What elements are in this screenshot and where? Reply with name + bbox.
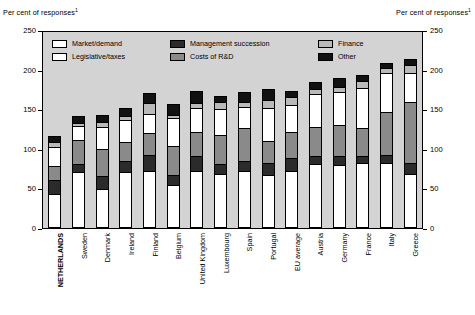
x-axis-label: Greece: [412, 233, 419, 257]
bar-segment: [191, 109, 202, 132]
y-axis-right: 050100150200250: [422, 31, 423, 229]
bar-segment: [120, 143, 131, 162]
bar-stack: [309, 82, 322, 228]
legend-label: Management succession: [190, 40, 270, 48]
x-axis-label: Ireland: [128, 233, 135, 255]
x-axis-label: Portugal: [270, 233, 277, 260]
bar-stack: [167, 104, 180, 228]
y-axis-tick: [38, 31, 42, 32]
bar-segment: [49, 181, 60, 195]
bar-segment: [239, 108, 250, 130]
bar-segment: [357, 164, 368, 227]
bar-segment: [381, 164, 392, 227]
bar-segment: [191, 172, 202, 227]
bar-segment: [49, 167, 60, 180]
bar-stack: [72, 116, 85, 228]
bar-stack: [333, 78, 346, 228]
bar-segment: [357, 89, 368, 128]
bar-segment: [120, 173, 131, 227]
bar-segment: [310, 157, 321, 166]
x-axis-label: Finland: [152, 233, 159, 257]
legend-label: Legislative/taxes: [72, 53, 125, 61]
x-axis-label: Luxembourg: [223, 233, 230, 273]
bar-segment: [215, 136, 226, 165]
bar-segment: [144, 115, 155, 135]
x-axis-label: Italy: [388, 233, 395, 246]
bar-segment: [73, 165, 84, 174]
bar-stack: [285, 91, 298, 228]
bar-segment: [191, 92, 202, 105]
bar-segment: [144, 156, 155, 172]
bar-segment: [286, 133, 297, 159]
bar-segment: [239, 93, 250, 103]
y-axis-tick: [38, 229, 42, 230]
bar-segment: [405, 175, 416, 227]
legend-label: Other: [338, 53, 356, 61]
bar-stack: [119, 108, 132, 228]
bar-segment: [381, 113, 392, 156]
bar-segment: [168, 105, 179, 115]
bar-segment: [405, 66, 416, 74]
y-axis-caption-left: Per cent of responses1: [3, 7, 78, 17]
bar-segment: [120, 162, 131, 172]
legend-swatch-icon: [170, 53, 185, 61]
bar-stack: [356, 75, 369, 228]
bar-segment: [120, 121, 131, 143]
bar-segment: [381, 74, 392, 113]
bar-segment: [97, 177, 108, 190]
bar-segment: [286, 172, 297, 227]
bar-segment: [405, 164, 416, 174]
legend-swatch-icon: [52, 53, 67, 61]
y-axis-tick: [38, 189, 42, 190]
x-axis-label: Spain: [246, 233, 253, 251]
legend-label: Finance: [338, 40, 364, 48]
y-axis-tick-label: 250: [430, 27, 443, 35]
bar-stack: [262, 89, 275, 228]
bar-segment: [97, 150, 108, 177]
bar-segment: [357, 129, 368, 157]
y-axis-tick: [423, 71, 427, 72]
y-axis-tick-label: 150: [23, 106, 36, 114]
bar-segment: [73, 127, 84, 142]
y-axis-tick: [423, 150, 427, 151]
bar-segment: [191, 157, 202, 173]
bar-segment: [215, 175, 226, 227]
legend-item: Costs of R&D: [170, 53, 318, 61]
y-axis-tick: [423, 110, 427, 111]
y-axis-tick-label: 100: [23, 146, 36, 154]
bar-segment: [334, 79, 345, 88]
y-axis-tick-label: 200: [430, 67, 443, 75]
bar-segment: [334, 126, 345, 157]
y-axis-tick-label: 150: [430, 106, 443, 114]
bar-segment: [215, 110, 226, 136]
y-axis-caption-right: Per cent of responses1: [396, 7, 471, 17]
bar-segment: [49, 195, 60, 228]
x-axis-label: Germany: [341, 233, 348, 263]
bar-stack: [380, 63, 393, 228]
x-axis-label: NETHERLANDS: [57, 233, 64, 287]
bar-segment: [381, 156, 392, 164]
bar-segment: [168, 119, 179, 146]
bar-segment: [263, 90, 274, 100]
y-axis-tick: [423, 31, 427, 32]
bar-segment: [286, 98, 297, 106]
bar-segment: [310, 83, 321, 90]
bar-stack: [143, 93, 156, 228]
x-axis-label: EU average: [294, 233, 301, 271]
bar-segment: [239, 129, 250, 162]
bar-segment: [357, 157, 368, 164]
bar-segment: [357, 82, 368, 89]
bar-segment: [144, 172, 155, 227]
bar-segment: [191, 133, 202, 157]
bar-segment: [120, 109, 131, 118]
legend-swatch-icon: [52, 40, 67, 48]
bar-segment: [263, 109, 274, 142]
bar-segment: [263, 164, 274, 176]
y-axis-tick: [38, 150, 42, 151]
bar-segment: [334, 157, 345, 166]
y-axis-tick: [38, 110, 42, 111]
x-axis-label: Austria: [317, 233, 324, 255]
bar-segment: [49, 148, 60, 167]
bar-stack: [404, 59, 417, 228]
legend-label: Costs of R&D: [190, 53, 234, 61]
